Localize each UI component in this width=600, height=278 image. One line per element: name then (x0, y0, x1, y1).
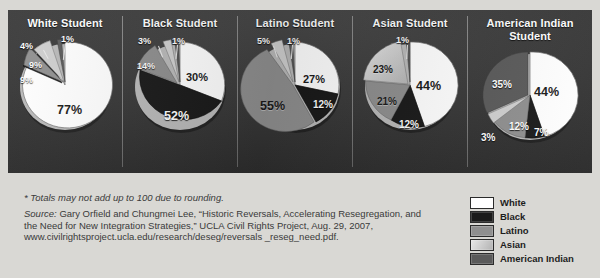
slice-label-latino: 9% (29, 60, 42, 70)
legend-item-black: Black (470, 210, 588, 223)
legend-label: Black (500, 212, 525, 222)
slice-label-black: 52% (164, 109, 189, 123)
slice-label-black: 12% (399, 119, 419, 130)
pie-chart-latino-student: 27% 12% 55% 5% 1% (243, 33, 347, 137)
slice-label-white: 27% (303, 73, 325, 85)
legend-swatch-white-icon (470, 197, 494, 209)
slice-label-american-indian: 1% (287, 36, 300, 46)
legend-item-asian: Asian (470, 238, 588, 251)
legend-item-american-indian: American Indian (470, 252, 588, 265)
legend-label: American Indian (500, 254, 574, 264)
pie-panel-latino-student: Latino Student 27% 12% 55% 5% 1% (238, 10, 352, 173)
pie-chart-american-indian-student: 44% 7% 12% 3% 35% (478, 43, 582, 147)
panel-title: White Student (27, 17, 102, 30)
slice-label-latino: 12% (509, 121, 529, 132)
footnote-rounding: * Totals may not add up to 100 due to ro… (24, 192, 424, 204)
slice-label-black: 9% (20, 75, 33, 85)
legend-swatch-latino-icon (470, 225, 494, 237)
slice-label-american-indian: 1% (396, 35, 409, 45)
pie-svg (243, 33, 347, 137)
slice-label-latino: 55% (260, 99, 285, 113)
legend-label: Asian (500, 240, 526, 250)
panel-title: Asian Student (372, 17, 447, 30)
legend-swatch-asian-icon (470, 239, 494, 251)
pie-chart-black-student: 30% 52% 14% 3% 1% (128, 33, 232, 137)
legend-swatch-american-indian-icon (470, 253, 494, 265)
slice-label-black: 12% (313, 99, 333, 110)
slice-label-black: 7% (534, 127, 548, 138)
pie-panel-american-indian-student: American Indian Student 44% 7% 12% 3% 35… (468, 10, 592, 173)
panel-title: Latino Student (256, 17, 334, 30)
pie-panel-white-student: White Student 77% 9% 9% 4% 1% (8, 10, 122, 173)
panel-title: American Indian Student (486, 17, 573, 42)
slice-label-white: 44% (534, 85, 559, 99)
slice-label-asian: 3% (138, 36, 151, 46)
slice-label-asian: 3% (481, 132, 495, 143)
slice-label-white: 77% (57, 103, 82, 117)
source-text: Gary Orfield and Chungmei Lee, “Historic… (24, 208, 421, 242)
slice-label-white: 30% (186, 71, 208, 83)
legend-label: Latino (500, 226, 529, 236)
slice-label-latino: 14% (137, 61, 155, 71)
pie-panel-asian-student: Asian Student (353, 10, 467, 173)
slice-label-asian: 23% (373, 64, 393, 75)
slice-label-american-indian: 35% (492, 79, 512, 90)
legend-item-latino: Latino (470, 224, 588, 237)
slice-label-white: 44% (416, 79, 441, 93)
legend-label: White (500, 198, 526, 208)
source-citation: Source: Gary Orfield and Chungmei Lee, “… (24, 208, 424, 243)
legend-swatch-black-icon (470, 211, 494, 223)
pie-panel-black-student: Black Student 30% 52% 14% 3% 1% (123, 10, 237, 173)
slice-label-asian: 4% (20, 41, 33, 51)
pie-chart-asian-student: 44% 12% 21% 23% 1% (358, 33, 462, 137)
panel-title: Black Student (143, 17, 218, 30)
slice-label-latino: 21% (377, 96, 397, 107)
pie-chart-white-student: 77% 9% 9% 4% 1% (13, 33, 117, 137)
source-label: Source: (24, 208, 57, 219)
legend: White Black Latino Asian American Indian (470, 196, 588, 265)
slice-label-american-indian: 1% (172, 36, 185, 46)
chart-panel: White Student 77% 9% 9% 4% 1% (8, 10, 592, 173)
legend-item-white: White (470, 196, 588, 209)
slice-label-asian: 5% (257, 36, 270, 46)
slice-label-american-indian: 1% (61, 34, 74, 44)
